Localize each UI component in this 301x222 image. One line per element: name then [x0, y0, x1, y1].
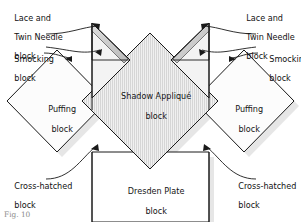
dresden-plate-block-label-line1: Dresden Plate: [128, 186, 185, 196]
puffing-block-right-label-line2: block: [238, 124, 259, 134]
callout-smocking-right: Smocking block: [259, 45, 301, 93]
puffing-block-left-label-line2: block: [51, 124, 72, 134]
figure-caption: Fig. 10: [4, 210, 30, 219]
shadow-applique-block-label-line1: Shadow Appliqué: [121, 91, 191, 101]
puffing-block-right-label-line1: Puffing: [235, 104, 263, 114]
dresden-plate-block-label: Dresden Plate block: [110, 176, 192, 222]
puffing-block-left-label: Puffing block: [26, 94, 88, 144]
dresden-plate-block-label-line2: block: [145, 206, 166, 216]
puffing-block-left-label-line1: Puffing: [48, 104, 76, 114]
callout-lace-twin-needle-right-line2: Twin Needle: [246, 32, 295, 42]
callout-lace-twin-needle-left-line2: Twin Needle: [14, 32, 63, 42]
callout-crosshatched-right-line2: block: [238, 200, 259, 210]
callout-smocking-left: Smocking block: [4, 45, 64, 93]
puffing-block-right-label: Puffing block: [213, 94, 275, 144]
callout-lace-twin-needle-right-line1: Lace and: [246, 13, 283, 23]
callout-smocking-right-line2: block: [269, 73, 290, 83]
callout-crosshatched-left-line2: block: [14, 200, 35, 210]
callout-crosshatched-right: Cross-hatched block: [228, 172, 300, 220]
callout-smocking-right-line1: Smocking: [269, 54, 301, 64]
callout-crosshatched-right-line1: Cross-hatched: [238, 181, 296, 191]
shadow-applique-block-label-line2: block: [145, 111, 166, 121]
callout-crosshatched-left-line1: Cross-hatched: [14, 181, 72, 191]
callout-smocking-left-line2: block: [14, 73, 35, 83]
quilt-layout-figure: Shadow Appliqué block Puffing block Puff…: [0, 0, 301, 222]
shadow-applique-block-label: Shadow Appliqué block: [110, 81, 192, 131]
callout-smocking-left-line1: Smocking: [14, 54, 54, 64]
callout-lace-twin-needle-left-line1: Lace and: [14, 13, 51, 23]
